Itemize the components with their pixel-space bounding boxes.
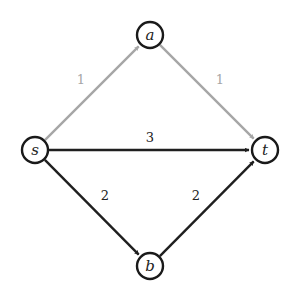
- node-a: a: [137, 22, 163, 48]
- edge-a-t: [160, 45, 254, 139]
- node-label-t: t: [262, 141, 269, 159]
- node-b: b: [137, 253, 163, 279]
- node-label-b: b: [145, 257, 155, 275]
- node-label-s: s: [31, 141, 39, 159]
- edge-b-t: [160, 161, 254, 256]
- edge-labels-layer: 11322: [77, 72, 224, 203]
- edge-s-a: [45, 46, 139, 140]
- edge-label-s-b: 2: [101, 188, 109, 203]
- edge-s-b: [45, 160, 139, 255]
- edge-label-b-t: 2: [192, 188, 200, 203]
- node-t: t: [252, 137, 278, 163]
- node-s: s: [22, 137, 48, 163]
- edge-label-s-a: 1: [77, 72, 85, 87]
- node-label-a: a: [146, 26, 155, 44]
- edge-label-s-t: 3: [146, 130, 154, 145]
- edge-label-a-t: 1: [216, 72, 224, 87]
- flow-network-diagram: 11322 satb: [0, 0, 298, 294]
